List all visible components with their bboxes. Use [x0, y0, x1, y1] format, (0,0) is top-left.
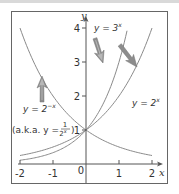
label-y-equals-2-to-neg-x: y = 2−x: [22, 102, 56, 114]
arrow-y2x-icon: [116, 42, 141, 70]
label-y-equals-2-to-x: y = 2x: [131, 96, 160, 108]
aka-denominator: 2x: [59, 128, 66, 138]
y-tick-label: 2: [74, 91, 80, 102]
exponential-chart: -2-1121234 y x 0 y = 3x y = 2x y = 2−x (…: [0, 0, 179, 194]
y-tick-label: 3: [74, 57, 80, 68]
arrow-y2negx-icon: [37, 76, 47, 102]
label-y-equals-3-to-x: y = 3x: [93, 21, 122, 33]
x-axis-label: x: [159, 167, 165, 178]
aka-prefix: (a.k.a. y =: [12, 125, 59, 135]
origin-label: 0: [78, 165, 84, 176]
y-tick-label: 4: [74, 23, 80, 34]
arrow-y3x-icon: [90, 37, 108, 65]
label-aka-one-over-2-to-x: (a.k.a. y = 1 2x ): [12, 121, 75, 138]
x-tick-label: 2: [149, 168, 155, 179]
y-axis-label: y: [80, 10, 87, 21]
x-tick-label: 1: [116, 168, 122, 179]
aka-suffix: ): [71, 125, 75, 135]
x-tick-label: -1: [48, 168, 58, 179]
x-tick-label: -2: [15, 168, 25, 179]
y-tick-label: 1: [74, 125, 80, 136]
